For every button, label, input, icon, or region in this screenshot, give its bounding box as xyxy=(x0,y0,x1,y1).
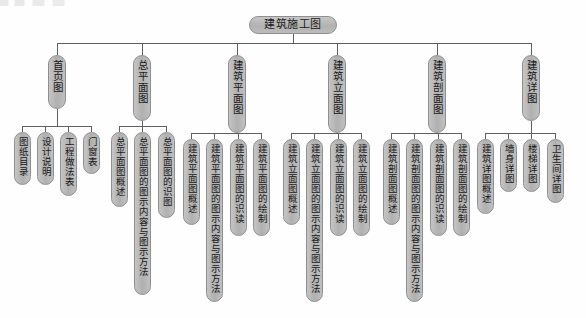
leaf-node-2-1-label: 总平面图概述 xyxy=(115,137,125,197)
leaf-node-1-3-label: 工程做法表 xyxy=(64,137,74,187)
branch-stem-6 xyxy=(531,43,532,55)
branch-bar-1 xyxy=(22,126,92,127)
leaf-node-4-1[interactable]: 建筑立面图概述 xyxy=(283,139,300,225)
leaf-node-5-3-label: 建筑剖面图的识读 xyxy=(434,144,444,224)
branch-drop-6 xyxy=(531,121,532,133)
leaf-node-5-4-label: 建筑剖面图的绘制 xyxy=(457,144,467,224)
branch-bar-5 xyxy=(391,133,461,134)
branch-bar-3 xyxy=(191,133,261,134)
branch-bar-4 xyxy=(291,133,361,134)
leaf-node-4-1-label: 建筑立面图概述 xyxy=(287,144,297,214)
leaf-node-3-3[interactable]: 建筑平面图的识读 xyxy=(230,139,247,236)
branch-node-2-label: 总平面图 xyxy=(136,60,147,104)
leaf-node-6-3[interactable]: 楼梯详图 xyxy=(523,139,540,192)
leaf-node-4-4-label: 建筑立面图的绘制 xyxy=(357,144,367,224)
leaf-node-4-2[interactable]: 建筑立面图的图示内容与图示方法 xyxy=(306,139,323,302)
leaf-node-2-3-label: 总平面图的识图 xyxy=(162,137,172,207)
branch-node-5[interactable]: 建筑剖面图 xyxy=(428,55,446,133)
leaf-node-2-3[interactable]: 总平面图的识图 xyxy=(158,132,175,218)
leaf-node-5-1[interactable]: 建筑剖面图概述 xyxy=(383,139,400,225)
leaf-node-1-1[interactable]: 图纸目录 xyxy=(14,132,31,185)
leaf-node-6-4[interactable]: 卫生间详图 xyxy=(547,139,564,203)
root-node[interactable]: 建筑施工图 xyxy=(249,16,337,34)
leaf-node-4-3[interactable]: 建筑立面图的识读 xyxy=(330,139,347,236)
leaf-node-1-3[interactable]: 工程做法表 xyxy=(60,132,77,196)
leaf-node-6-2-label: 墙身详图 xyxy=(504,144,514,184)
leaf-node-1-2-label: 设计说明 xyxy=(41,137,51,177)
branch-node-2[interactable]: 总平面图 xyxy=(133,55,151,121)
leaf-node-2-2[interactable]: 总平面图的图示内容与图示方法 xyxy=(134,132,151,295)
leaf-node-6-4-label: 卫生间详图 xyxy=(551,144,561,194)
branch-stem-1 xyxy=(57,43,58,55)
leaf-node-3-1-label: 建筑平面图概述 xyxy=(187,144,197,214)
branch-stem-4 xyxy=(337,43,338,55)
branch-drop-1 xyxy=(57,109,58,126)
branch-stem-2 xyxy=(142,43,143,55)
branch-node-4-label: 建筑立面图 xyxy=(331,60,342,115)
leaf-node-3-2[interactable]: 建筑平面图的图示内容与图示方法 xyxy=(206,139,223,302)
leaf-node-3-1[interactable]: 建筑平面图概述 xyxy=(183,139,200,225)
root-stem xyxy=(293,34,294,43)
leaf-node-1-4-label: 门窗表 xyxy=(87,137,97,167)
leaf-node-6-3-label: 楼梯详图 xyxy=(527,144,537,184)
leaf-node-3-2-label: 建筑平面图的图示内容与图示方法 xyxy=(210,144,220,294)
leaf-node-1-1-label: 图纸目录 xyxy=(18,137,28,177)
leaf-node-2-1[interactable]: 总平面图概述 xyxy=(111,132,128,207)
branch-node-6[interactable]: 建筑详图 xyxy=(522,55,540,121)
branch-node-4[interactable]: 建筑立面图 xyxy=(328,55,346,133)
leaf-node-3-4-label: 建筑平面图的绘制 xyxy=(257,144,267,224)
leaf-node-6-1[interactable]: 建筑详图概述 xyxy=(477,139,494,214)
level1-distribution-bar xyxy=(57,43,532,44)
branch-node-5-label: 建筑剖面图 xyxy=(431,60,442,115)
branch-node-3-label: 建筑平面图 xyxy=(231,60,242,115)
leaf-node-3-3-label: 建筑平面图的识读 xyxy=(234,144,244,224)
leaf-node-6-1-label: 建筑详图概述 xyxy=(481,144,491,204)
leaf-node-1-2[interactable]: 设计说明 xyxy=(37,132,54,185)
leaf-node-1-4[interactable]: 门窗表 xyxy=(83,132,100,174)
leaf-node-5-1-label: 建筑剖面图概述 xyxy=(387,144,397,214)
leaf-node-5-4[interactable]: 建筑剖面图的绘制 xyxy=(453,139,470,236)
scan-artifact xyxy=(0,0,160,6)
leaf-node-5-2[interactable]: 建筑剖面图的图示内容与图示方法 xyxy=(406,139,423,302)
leaf-node-5-2-label: 建筑剖面图的图示内容与图示方法 xyxy=(410,144,420,294)
leaf-node-4-3-label: 建筑立面图的识读 xyxy=(334,144,344,224)
branch-node-6-label: 建筑详图 xyxy=(525,60,536,104)
branch-stem-3 xyxy=(237,43,238,55)
branch-node-3[interactable]: 建筑平面图 xyxy=(228,55,246,133)
leaf-node-5-3[interactable]: 建筑剖面图的识读 xyxy=(430,139,447,236)
branch-bar-6 xyxy=(485,133,555,134)
branch-node-1-label: 首页图 xyxy=(51,60,62,93)
leaf-node-4-2-label: 建筑立面图的图示内容与图示方法 xyxy=(310,144,320,294)
leaf-node-2-2-label: 总平面图的图示内容与图示方法 xyxy=(138,137,148,277)
leaf-node-3-4[interactable]: 建筑平面图的绘制 xyxy=(253,139,270,236)
leaf-node-6-2[interactable]: 墙身详图 xyxy=(500,139,517,192)
leaf-node-4-4[interactable]: 建筑立面图的绘制 xyxy=(353,139,370,236)
diagram-canvas: 建筑施工图 首页图 图纸目录 设计说明 工程做法表 门窗表 总平面图 总平面图概… xyxy=(0,0,586,318)
branch-stem-5 xyxy=(437,43,438,55)
branch-node-1[interactable]: 首页图 xyxy=(48,55,66,109)
